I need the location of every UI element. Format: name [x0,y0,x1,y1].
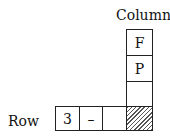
row-cell-2: – [79,106,103,131]
row-cell-1: 3 [55,106,80,131]
column-cell-3 [126,81,153,107]
column-label: Column [116,7,170,23]
intersection-cell [126,106,153,131]
row-label: Row [8,113,39,129]
column-cell-2: P [126,55,153,82]
column-cell-1: F [126,29,153,56]
row-cell-3 [102,106,127,131]
